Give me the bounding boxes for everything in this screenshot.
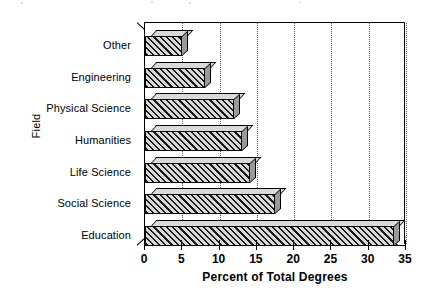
bar bbox=[145, 157, 250, 177]
bar-side-face bbox=[275, 189, 281, 214]
x-axis-tick-label: 20 bbox=[276, 252, 310, 266]
x-axis-tick-label: 0 bbox=[127, 252, 161, 266]
x-axis-tick bbox=[219, 240, 220, 250]
bar bbox=[145, 220, 394, 240]
bar-side-face bbox=[234, 94, 240, 119]
bar-side-face bbox=[250, 157, 256, 182]
x-axis-tick bbox=[144, 240, 145, 250]
bar bbox=[145, 30, 182, 50]
bar-front-face bbox=[145, 36, 182, 56]
bar-front-face bbox=[145, 163, 250, 183]
bar-front-face bbox=[145, 99, 234, 119]
bar bbox=[145, 125, 242, 145]
y-axis-tick-label: Education bbox=[16, 229, 131, 241]
scan-artifact bbox=[0, 0, 428, 7]
bar bbox=[145, 188, 275, 208]
plot-area bbox=[144, 22, 405, 244]
bar-chart: Field OtherEngineeringPhysical ScienceHu… bbox=[0, 0, 428, 294]
bar-front-face bbox=[145, 131, 242, 151]
x-axis-tick-label: 10 bbox=[202, 252, 236, 266]
bar-front-face bbox=[145, 194, 275, 214]
bar-side-face bbox=[394, 221, 400, 246]
x-axis-tick bbox=[293, 240, 294, 250]
x-axis-line bbox=[144, 245, 406, 246]
x-axis-tick bbox=[256, 240, 257, 250]
y-axis-tick-label: Social Science bbox=[16, 197, 131, 209]
y-axis-category-labels: OtherEngineeringPhysical ScienceHumaniti… bbox=[20, 22, 135, 244]
x-axis-tick bbox=[368, 240, 369, 250]
bar-front-face bbox=[145, 68, 205, 88]
x-axis-tick-label: 15 bbox=[239, 252, 273, 266]
x-axis-tick bbox=[405, 240, 406, 250]
x-axis-tick bbox=[330, 240, 331, 250]
y-axis-tick-label: Life Science bbox=[16, 166, 131, 178]
gridline bbox=[406, 23, 407, 244]
y-axis-tick-label: Humanities bbox=[16, 134, 131, 146]
y-axis-tick-label: Physical Science bbox=[16, 102, 131, 114]
bars bbox=[145, 23, 404, 244]
y-axis-tick-label: Other bbox=[16, 39, 131, 51]
bar-side-face bbox=[205, 62, 211, 87]
bar bbox=[145, 62, 205, 82]
bar-side-face bbox=[182, 30, 188, 55]
y-axis-tick-label: Engineering bbox=[16, 71, 131, 83]
bar-side-face bbox=[242, 126, 248, 151]
x-axis-tick-label: 25 bbox=[313, 252, 347, 266]
bar bbox=[145, 93, 234, 113]
x-axis-tick-label: 5 bbox=[164, 252, 198, 266]
x-axis-title: Percent of Total Degrees bbox=[144, 270, 406, 284]
x-axis-tick-label: 30 bbox=[351, 252, 385, 266]
x-axis-tick-label: 35 bbox=[388, 252, 422, 266]
bar-front-face bbox=[145, 226, 394, 246]
x-axis-tick bbox=[181, 240, 182, 250]
